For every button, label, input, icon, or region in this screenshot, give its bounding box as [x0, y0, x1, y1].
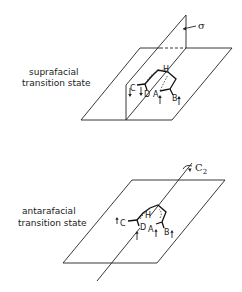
transition-state-figure: suprafacial transition state σ: [0, 0, 242, 292]
up-arrowhead-icon: [170, 230, 173, 233]
atom-C: C: [120, 219, 126, 228]
antarafacial-diagram: antarafacial transition state C2 H C D A…: [18, 162, 225, 281]
up-arrowhead-icon: [177, 96, 181, 99]
down-arrowhead-icon: [139, 93, 143, 96]
suprafacial-caption-line1: suprafacial: [29, 67, 78, 77]
up-arrowhead-icon: [154, 229, 157, 232]
down-arrowhead-icon: [128, 94, 132, 97]
suprafacial-caption-line2: transition state: [22, 78, 91, 88]
suprafacial-molecule: H C D A B: [128, 65, 181, 105]
up-arrowhead-icon: [158, 95, 162, 98]
suprafacial-diagram: suprafacial transition state σ: [22, 15, 232, 120]
c2-label: C2: [195, 162, 207, 176]
up-arrowhead-icon: [115, 217, 118, 220]
atom-A: A: [148, 225, 154, 234]
atom-H: H: [163, 65, 169, 74]
sigma-label: σ: [198, 20, 205, 31]
antarafacial-caption-line1: antarafacial: [22, 206, 76, 216]
rotation-arrowhead-icon: [188, 169, 192, 173]
atom-C: C: [130, 84, 136, 93]
atom-A: A: [153, 90, 159, 99]
antarafacial-caption-line2: transition state: [18, 218, 87, 228]
atom-H: H: [145, 211, 151, 220]
atom-D: D: [144, 90, 150, 99]
atom-D: D: [140, 223, 146, 232]
atom-B: B: [164, 228, 170, 237]
horizontal-plane: [63, 180, 225, 263]
atom-B: B: [172, 94, 178, 103]
mirror-plane: [126, 15, 186, 120]
antarafacial-molecule: H C D A B: [115, 205, 173, 240]
